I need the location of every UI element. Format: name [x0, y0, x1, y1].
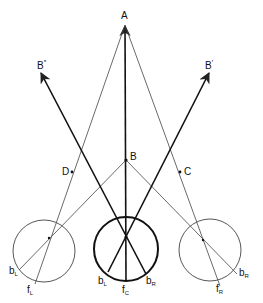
label-bR: bR [239, 268, 249, 279]
point-D-dot [71, 171, 74, 174]
point-B-dot [124, 158, 127, 161]
label-center-bR-sub: R [152, 281, 156, 287]
right-nodal-dot [202, 239, 204, 241]
label-bL: bL [9, 266, 18, 277]
label-fC: fC [122, 285, 129, 296]
label-B-double-prime: B″ [37, 59, 46, 71]
label-center-bL: bL [98, 276, 107, 287]
label-B-prime-mark: ′ [212, 59, 213, 66]
left-eye-circle [13, 220, 75, 282]
label-fC-sub: C [125, 290, 129, 296]
label-B-prime: B′ [205, 59, 213, 71]
label-center-bL-sub: L [104, 281, 107, 287]
center-nodal-dot [124, 235, 127, 238]
label-fL-sub: L [30, 290, 33, 296]
label-center-bR: bR [146, 276, 156, 287]
label-fR-sub: R [219, 289, 223, 295]
label-D: D [62, 167, 69, 177]
label-fR: fR [216, 284, 223, 295]
point-C-dot [179, 171, 182, 174]
label-A: A [121, 11, 128, 21]
line-A-fL [35, 25, 125, 284]
label-bL-sub: L [15, 271, 18, 277]
label-B-double-prime-letter: B [37, 60, 44, 71]
label-B-prime-letter: B [205, 60, 212, 71]
label-B-double-prime-mark: ″ [44, 59, 46, 66]
label-C: C [184, 167, 191, 177]
label-fL: fL [27, 285, 33, 296]
right-eye-circle [179, 219, 241, 281]
label-B: B [130, 152, 137, 162]
center-axis-line [125, 26, 126, 281]
line-B-bR [126, 160, 237, 274]
arrow-line-B-prime [108, 73, 209, 272]
label-bR-sub: R [245, 273, 249, 279]
left-nodal-dot [48, 237, 50, 239]
diagram-canvas: A B D C B″ B′ bL fL bL bR fC bR fR [0, 0, 263, 303]
